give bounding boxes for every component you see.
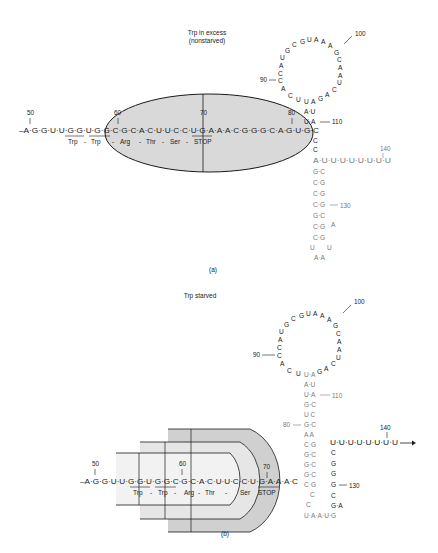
svg-text:A: A <box>278 336 283 343</box>
svg-text:A: A <box>311 98 316 105</box>
panel-b: Trp starved 50 60 70 –A·G·G·U·U·G·G·U·G·… <box>80 292 416 538</box>
svg-text:G: G <box>331 460 336 467</box>
svg-text:C·G: C·G <box>313 179 325 186</box>
codon-sep: - <box>162 138 164 145</box>
codon-sep: - <box>186 138 188 145</box>
codon-thr-b: Thr <box>205 489 216 496</box>
codon-trp-1-b: Trp <box>133 489 143 497</box>
svg-text:C: C <box>313 146 318 153</box>
num-90-b: 90 <box>253 351 261 358</box>
num-110-b: 110 <box>332 392 343 399</box>
svg-text:U: U <box>279 328 284 335</box>
svg-text:A·U: A·U <box>304 381 316 388</box>
codon-sep: - <box>174 489 176 496</box>
svg-text:C: C <box>331 360 336 367</box>
codon-ser-b: Ser <box>240 489 251 496</box>
svg-text:G·C: G·C <box>304 471 316 478</box>
num-70-b: 70 <box>263 463 271 470</box>
svg-text:G·C: G·C <box>313 168 325 175</box>
num-140-b: 140 <box>380 424 391 431</box>
svg-text:U: U <box>307 36 312 43</box>
terminator-a: A·U·U·U·U·U·U·U·U 140 G·C C·G C·G C·G 13… <box>310 145 391 261</box>
num-130-b: 130 <box>349 482 360 489</box>
svg-text:A: A <box>328 42 333 49</box>
attenuation-diagram: Trp in excess (nonstarved) 50 60 70 80 –… <box>0 0 438 553</box>
svg-text:A·A: A·A <box>314 254 326 261</box>
tail-b: U·U·U·U·U·U·U·U 140 C G G G 130 C G·A <box>330 424 416 509</box>
svg-text:C: C <box>313 137 318 144</box>
svg-text:U·A·A·U·G: U·A·A·U·G <box>304 512 336 519</box>
svg-text:A A: A A <box>304 431 315 438</box>
svg-text:C: C <box>306 501 311 508</box>
num-100-b: 100 <box>354 298 365 305</box>
svg-text:G: G <box>331 481 336 488</box>
svg-text:U: U <box>327 244 332 251</box>
svg-text:C·G: C·G <box>313 201 325 208</box>
svg-text:C: C <box>287 367 292 374</box>
svg-text:U: U <box>306 310 311 317</box>
svg-text:A: A <box>331 221 336 228</box>
codon-arg-b: Arg <box>184 489 195 497</box>
svg-text:C: C <box>331 492 336 499</box>
codon-trp-2-b: Trp <box>158 489 168 497</box>
num-100: 100 <box>355 30 366 37</box>
svg-text:A: A <box>325 91 330 98</box>
svg-text:A: A <box>320 312 325 319</box>
svg-text:G: G <box>333 322 338 329</box>
svg-text:A: A <box>280 360 285 367</box>
svg-text:U: U <box>336 354 341 361</box>
num-130: 130 <box>340 202 351 209</box>
svg-text:U: U <box>296 96 301 103</box>
svg-text:C·G: C·G <box>313 223 325 230</box>
leader-sequence-b: –A·G·G·U·U·G·G·U·G·G·C·G·C·A·C·U·U·C·C·U… <box>80 478 298 485</box>
svg-text:G·A: G·A <box>331 502 343 509</box>
svg-text:C·G: C·G <box>313 234 325 241</box>
svg-text:U: U <box>304 98 309 105</box>
svg-text:U C: U C <box>304 411 316 418</box>
svg-text:A: A <box>338 72 343 79</box>
num-60: 60 <box>114 109 122 116</box>
num-80-b: 80 <box>283 421 291 428</box>
svg-text:U: U <box>310 244 315 251</box>
svg-text:A: A <box>337 338 342 345</box>
svg-text:C: C <box>332 86 337 93</box>
svg-text:C: C <box>292 41 297 48</box>
svg-text:G·C: G·C <box>304 401 316 408</box>
codon-sep: - <box>225 489 227 496</box>
panel-a: Trp in excess (nonstarved) 50 60 70 80 –… <box>19 29 391 274</box>
svg-text:U·A: U·A <box>304 118 316 125</box>
svg-text:C: C <box>277 344 282 351</box>
svg-text:C·G: C·G <box>313 190 325 197</box>
svg-text:G: G <box>317 368 322 375</box>
num-140: 140 <box>380 145 391 152</box>
svg-text:A: A <box>327 316 332 323</box>
svg-text:C: C <box>291 315 296 322</box>
panel-a-title-2: (nonstarved) <box>189 37 226 45</box>
codon-ser: Ser <box>170 138 181 145</box>
svg-text:U·A: U·A <box>304 371 316 378</box>
codon-trp-2: Trp <box>91 138 101 146</box>
loop-b: CA CC AU GC GU AA AG CA AU CA GU 90 100 <box>253 298 365 377</box>
arrow-icon <box>412 441 416 446</box>
svg-text:A: A <box>321 38 326 45</box>
svg-text:A·U: A·U <box>304 108 316 115</box>
svg-text:A: A <box>281 85 286 92</box>
num-90: 90 <box>260 76 268 83</box>
num-110: 110 <box>332 118 343 125</box>
num-80: 80 <box>288 109 296 116</box>
svg-text:U: U <box>337 79 342 86</box>
u-tail-a: A·U·U·U·U·U·U·U·U <box>313 157 391 164</box>
svg-text:G: G <box>299 312 304 319</box>
u-tail-b: U·U·U·U·U·U·U·U <box>330 439 398 446</box>
svg-text:G: G <box>300 38 305 45</box>
codon-sep: - <box>139 138 141 145</box>
svg-text:G: G <box>284 321 289 328</box>
svg-text:C: C <box>278 70 283 77</box>
num-50: 50 <box>27 109 35 116</box>
svg-text:G: G <box>285 47 290 54</box>
codon-stop: STOP <box>194 138 212 145</box>
codon-thr: Thr <box>146 138 157 145</box>
codon-trp-1: Trp <box>68 138 78 146</box>
svg-text:G·C: G·C <box>304 421 316 428</box>
svg-text:C·G: C·G <box>304 481 316 488</box>
